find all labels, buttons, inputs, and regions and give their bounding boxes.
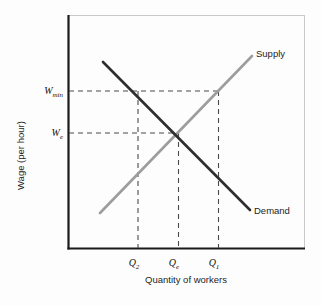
demand-curve-label: Demand xyxy=(254,205,290,216)
x-tick-q1-sub: 1 xyxy=(216,263,220,271)
y-axis-title: Wage (per hour) xyxy=(15,121,26,190)
x-axis-title: Quantity of workers xyxy=(145,274,227,285)
supply-curve-label: Supply xyxy=(256,48,285,59)
figure-background xyxy=(0,0,321,305)
minimum-wage-supply-demand-figure: Wage (per hour) Quantity of workers Wmin… xyxy=(0,0,321,305)
y-tick-wmin-sub: min xyxy=(53,91,64,99)
y-tick-we-sub: e xyxy=(60,133,63,141)
x-tick-qe-sub: e xyxy=(176,263,179,271)
x-tick-q2-sub: 2 xyxy=(136,263,140,271)
chart-canvas: Wage (per hour) Quantity of workers Wmin… xyxy=(0,0,321,305)
